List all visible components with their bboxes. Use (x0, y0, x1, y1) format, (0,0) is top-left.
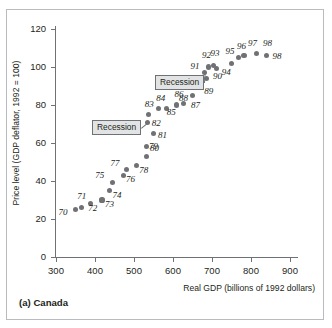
data-point-label: 74 (112, 190, 121, 200)
data-point-label: 95 (226, 46, 235, 56)
data-point (99, 197, 104, 202)
scatter-plot: 020406080100120 300400500600700800900 Pr… (0, 0, 332, 328)
data-point-label: 98 (273, 51, 282, 61)
data-point-label: 82 (152, 118, 161, 128)
data-point-label: 98 (263, 38, 272, 48)
data-point-label: 84 (156, 93, 165, 103)
data-point (73, 207, 78, 212)
data-point (151, 131, 156, 136)
data-point (206, 64, 211, 69)
x-tick-label: 700 (197, 265, 227, 276)
y-axis-line (55, 26, 56, 258)
data-point (121, 173, 126, 178)
y-tick-label: 100 (24, 61, 46, 72)
data-point-label: 87 (191, 100, 200, 110)
y-tick (51, 29, 56, 30)
x-tick (290, 257, 291, 262)
data-point-label: 78 (139, 165, 148, 175)
data-point (190, 93, 195, 98)
data-point (144, 154, 149, 159)
y-tick (51, 181, 56, 182)
data-point-label: 71 (77, 191, 86, 201)
data-point-label: 89 (204, 86, 213, 96)
x-tick-label: 400 (80, 265, 110, 276)
data-point (107, 188, 112, 193)
y-tick (51, 105, 56, 106)
x-tick (251, 257, 252, 262)
data-point-label: 70 (59, 207, 68, 217)
panel-caption: (a) Canada (19, 297, 68, 308)
x-tick-label: 300 (41, 265, 71, 276)
recession-annotation: Recession (92, 120, 141, 135)
data-point-label: 76 (126, 174, 135, 184)
data-point-label: 83 (145, 99, 154, 109)
y-tick-label: 60 (24, 137, 46, 148)
data-point-label: 96 (237, 41, 246, 51)
data-point (124, 167, 129, 172)
x-tick (134, 257, 135, 262)
x-tick-label: 500 (119, 265, 149, 276)
data-point (79, 205, 84, 210)
x-tick (95, 257, 96, 262)
data-point-label: 90 (213, 71, 222, 81)
data-point (241, 53, 246, 58)
y-tick (51, 219, 56, 220)
y-tick-label: 120 (24, 23, 46, 34)
data-point-label: 80 (150, 143, 159, 153)
y-tick-label: 0 (24, 251, 46, 262)
figure-page: 020406080100120 300400500600700800900 Pr… (0, 0, 332, 328)
x-tick-label: 800 (236, 265, 266, 276)
data-point-label: 88 (179, 93, 188, 103)
x-axis-line (55, 257, 298, 258)
recession-annotation: Recession (155, 75, 204, 90)
y-tick-label: 80 (24, 99, 46, 110)
y-tick (51, 67, 56, 68)
data-point-label: 97 (248, 38, 257, 48)
x-tick (212, 257, 213, 262)
data-point-label: 77 (111, 158, 120, 168)
data-point (254, 51, 259, 56)
data-point (110, 180, 115, 185)
data-point (264, 53, 269, 58)
data-point-label: 93 (211, 48, 220, 58)
y-tick (51, 143, 56, 144)
x-tick-label: 900 (275, 265, 305, 276)
data-point-label: 72 (88, 203, 97, 213)
x-tick-label: 600 (158, 265, 188, 276)
data-point-label: 91 (191, 61, 200, 71)
data-point (156, 106, 161, 111)
data-point (236, 55, 241, 60)
y-tick-label: 40 (24, 175, 46, 186)
data-point-label: 85 (167, 107, 176, 117)
y-axis-title: Price level (GDP deflator, 1992 = 100) (11, 53, 21, 213)
y-tick-label: 20 (24, 213, 46, 224)
data-point-label: 81 (158, 130, 167, 140)
data-point (174, 102, 179, 107)
data-point (229, 61, 234, 66)
data-point-label: 94 (222, 67, 231, 77)
data-point (146, 112, 151, 117)
data-point-label: 75 (95, 170, 104, 180)
x-axis-title: Real GDP (billions of 1992 dollars) (140, 283, 315, 293)
x-tick (173, 257, 174, 262)
data-point-label: 73 (105, 199, 114, 209)
x-tick (56, 257, 57, 262)
data-point (134, 163, 139, 168)
